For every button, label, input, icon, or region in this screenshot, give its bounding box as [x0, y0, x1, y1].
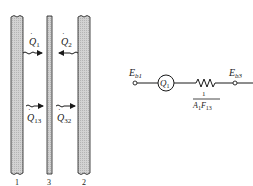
wall-label-1: 1 — [15, 178, 19, 186]
node-eb1 — [133, 81, 137, 85]
thermal-network: Eb1 Q1 · Eb3 1 A1F13 — [128, 67, 253, 111]
flux-arrow-q2 — [59, 52, 78, 54]
resistor-icon — [196, 79, 215, 87]
resistance-denominator: A1F13 — [192, 101, 212, 111]
node-label-eb1: Eb1 — [128, 67, 142, 80]
wall-1 — [11, 16, 23, 175]
wall-2 — [78, 16, 90, 175]
resistance-numerator: 1 — [202, 90, 206, 98]
wall-label-2: 2 — [82, 178, 86, 186]
dot-q13: · — [28, 105, 31, 114]
dot-q32: · — [58, 105, 61, 114]
dot-source: · — [161, 73, 163, 81]
dot-q2: · — [62, 29, 65, 38]
radiation-shield-diagram: 1 3 2 Q1 · Q2 · Q13 · Q32 · Eb1 Q1 · Eb3… — [0, 0, 253, 186]
wall-label-3: 3 — [47, 178, 51, 186]
node-label-eb3: Eb3 — [228, 67, 243, 80]
flux-arrow-q1 — [23, 52, 42, 54]
wall-3-shield — [47, 16, 52, 174]
node-eb3 — [233, 81, 237, 85]
dot-q1: · — [30, 29, 33, 38]
